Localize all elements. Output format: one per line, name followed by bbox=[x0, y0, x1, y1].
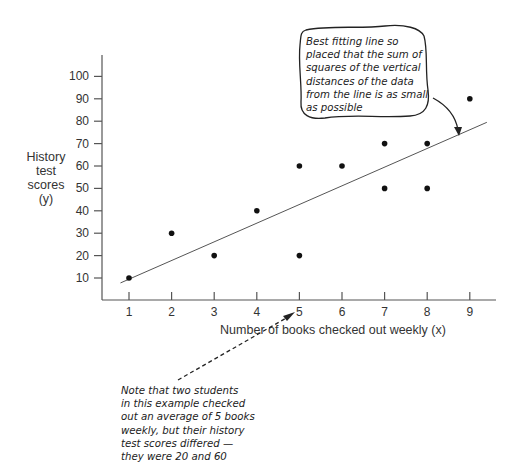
y-tick-label: 40 bbox=[76, 204, 90, 218]
annotation-line: out an average of 5 books bbox=[121, 411, 255, 422]
data-point bbox=[297, 253, 303, 259]
annotation-line: distances of the data bbox=[306, 76, 414, 87]
data-point bbox=[297, 163, 303, 169]
best-fit-annotation: Best fitting line soplaced that the sum … bbox=[299, 25, 462, 136]
annotation-line: squares of the vertical bbox=[306, 62, 421, 73]
annotation-line: as possible bbox=[306, 102, 363, 113]
y-axis-ticks: 102030405060708090100 bbox=[69, 69, 102, 285]
scatter-chart: 102030405060708090100 123456789 History … bbox=[0, 0, 519, 476]
x-tick-label: 3 bbox=[211, 305, 218, 319]
y-tick-label: 90 bbox=[76, 92, 90, 106]
x-tick-label: 1 bbox=[126, 305, 133, 319]
data-point bbox=[339, 163, 345, 169]
y-tick-label: 80 bbox=[76, 114, 90, 128]
annotation-line: Best fitting line so bbox=[306, 36, 399, 47]
data-point bbox=[254, 208, 260, 214]
data-point bbox=[467, 96, 473, 102]
x-tick-label: 5 bbox=[296, 305, 303, 319]
y-axis-title-line: test bbox=[36, 164, 57, 178]
y-axis-title-line: scores bbox=[28, 178, 65, 192]
annotation-line: from the line is as small bbox=[306, 89, 428, 100]
x-tick-label: 4 bbox=[253, 305, 260, 319]
annotation-line: Note that two students bbox=[121, 385, 239, 396]
y-tick-label: 50 bbox=[76, 181, 90, 195]
annotation-line: placed that the sum of bbox=[305, 49, 423, 60]
y-axis-title: History test scores (y) bbox=[27, 150, 67, 206]
y-tick-label: 20 bbox=[76, 249, 90, 263]
data-point bbox=[382, 186, 388, 192]
data-point bbox=[169, 230, 175, 236]
data-point bbox=[382, 141, 388, 147]
x-tick-label: 6 bbox=[339, 305, 346, 319]
data-points bbox=[126, 96, 472, 281]
data-point bbox=[424, 186, 430, 192]
x-axis-ticks: 123456789 bbox=[126, 292, 474, 319]
data-point bbox=[211, 253, 217, 259]
y-axis-title-line: (y) bbox=[39, 192, 54, 206]
x-tick-label: 7 bbox=[381, 305, 388, 319]
annotation-line: in this example checked bbox=[121, 398, 246, 409]
y-tick-label: 70 bbox=[76, 137, 90, 151]
y-axis-title-line: History bbox=[27, 150, 67, 164]
x-tick-label: 8 bbox=[424, 305, 431, 319]
best-fit-line bbox=[120, 122, 486, 283]
curved-arrow bbox=[433, 98, 458, 130]
y-tick-label: 100 bbox=[69, 69, 89, 83]
x-tick-label: 9 bbox=[466, 305, 473, 319]
data-point bbox=[424, 141, 430, 147]
annotation-line: they were 20 and 60 bbox=[121, 451, 227, 462]
data-point bbox=[126, 275, 132, 281]
annotation-line: weekly, but their history bbox=[121, 425, 245, 436]
y-tick-label: 60 bbox=[76, 159, 90, 173]
y-tick-label: 10 bbox=[76, 271, 90, 285]
y-tick-label: 30 bbox=[76, 226, 90, 240]
x-tick-label: 2 bbox=[168, 305, 175, 319]
annotation-line: test scores differed — bbox=[121, 438, 233, 449]
x-axis-title: Number of books checked out weekly (x) bbox=[220, 323, 446, 337]
arrowhead-icon bbox=[283, 312, 295, 321]
